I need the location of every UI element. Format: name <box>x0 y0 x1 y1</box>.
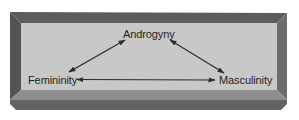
frame-left <box>10 12 21 100</box>
diagram-canvas: Androgyny Femininity Masculinity <box>0 0 299 120</box>
arrow-femininity-masculinity <box>77 80 215 81</box>
node-label-masculinity: Masculinity <box>219 74 272 86</box>
frame-bottom-bevel <box>10 90 287 100</box>
node-label-femininity: Femininity <box>28 74 77 86</box>
frame-bottom-face <box>10 100 287 110</box>
box-frame <box>0 0 299 120</box>
node-label-androgyny: Androgyny <box>123 28 175 40</box>
frame-right <box>277 13 287 100</box>
frame-top <box>10 12 287 23</box>
